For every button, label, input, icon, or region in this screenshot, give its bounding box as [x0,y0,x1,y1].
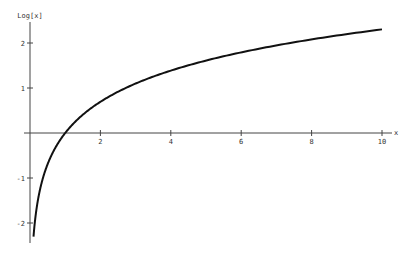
x-tick-label: 6 [239,138,243,146]
y-tick-label: 2 [21,40,25,48]
y-axis-label: Log[x] [17,12,42,20]
axes [24,22,392,243]
x-tick-label: 4 [169,138,173,146]
x-tick-label: 2 [98,138,102,146]
x-tick-label: 10 [378,138,386,146]
x-axis-label: x [394,129,398,137]
x-tick-label: 8 [309,138,313,146]
x-ticks: 246810 [98,130,386,146]
y-tick-label: -1 [17,175,25,183]
log-plot: 246810 -2-112 x Log[x] [0,0,414,254]
y-tick-label: 1 [21,85,25,93]
y-tick-label: -2 [17,220,25,228]
